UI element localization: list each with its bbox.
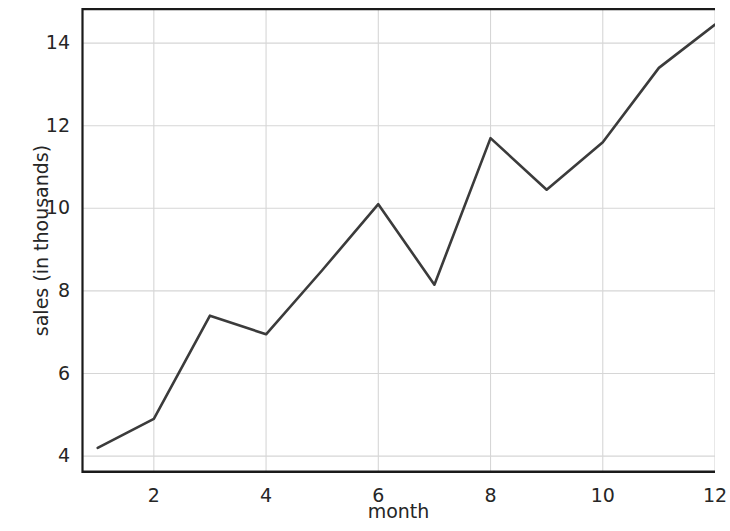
y-axis-title: sales (in thousands) [24, 8, 58, 473]
plot-area-background [82, 8, 715, 473]
x-axis-title: month [82, 500, 715, 522]
